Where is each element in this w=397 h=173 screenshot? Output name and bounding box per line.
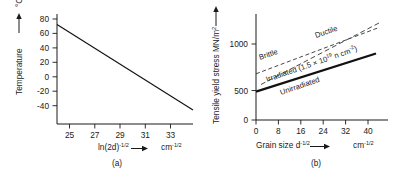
figure-container: 80 60 40 20 0 -20 -40 25 27 29 31 33 — [0, 0, 397, 173]
chart-a-x-tick-label-0: 25 — [65, 130, 75, 140]
chart-a-ylabel-text: Temperature — [14, 48, 24, 95]
chart-a-x-ticks — [70, 124, 171, 129]
chart-b-xlabel-exponent: -1/2 — [300, 140, 310, 146]
chart-b-x-tick-label-2: 16 — [296, 126, 306, 136]
svg-text:cm-1/2: cm-1/2 — [161, 142, 182, 153]
chart-a-subcaption: (a) — [112, 158, 122, 168]
chart-b-x-tick-label-1: 8 — [276, 126, 281, 136]
chart-b-y-tick-label-2: 1000 — [230, 39, 249, 49]
chart-b-y-axis-title: Tensile yield stress MN/m2 — [211, 6, 222, 124]
chart-a-y-tick-label-6: -40 — [37, 101, 49, 111]
chart-b-annotation-ductile: Ductile — [314, 24, 339, 40]
chart-a-x-tick-label-4: 33 — [166, 130, 176, 140]
chart-b-subcaption: (b) — [311, 158, 321, 168]
chart-a-x-tick-label-3: 31 — [141, 130, 151, 140]
chart-a-svg: 80 60 40 20 0 -20 -40 25 27 29 31 33 — [0, 0, 199, 173]
chart-a-y-axis-title: Temperature °C — [14, 0, 24, 95]
chart-b-annotation-irradiated-close: ) — [353, 44, 359, 53]
chart-a-xlabel-text: ln(2d) — [98, 142, 119, 152]
chart-a-x-unit: cm-1/2 — [161, 142, 182, 153]
chart-a-x-tick-label-2: 29 — [115, 130, 125, 140]
chart-a-y-tick-label-5: -20 — [37, 86, 49, 96]
chart-b-xunit-exponent: -1/2 — [364, 140, 374, 146]
chart-a-y-tick-label-0: 80 — [40, 14, 50, 24]
chart-b-x-tick-label-4: 32 — [341, 126, 351, 136]
chart-a-x-axis-title: ln(2d)-1/2 — [98, 142, 148, 153]
chart-a-series-line — [57, 25, 193, 111]
chart-b-xlabel-text: Grain size d — [256, 140, 301, 150]
svg-text:Grain size d-1/2: Grain size d-1/2 — [256, 140, 310, 151]
svg-text:ln(2d)-1/2: ln(2d)-1/2 — [98, 142, 129, 153]
chart-a-xunit-text: cm — [161, 142, 172, 152]
chart-a-xlabel-exponent: -1/2 — [119, 142, 129, 148]
chart-a-xunit-exponent: -1/2 — [172, 142, 182, 148]
chart-b-ylabel-text: Tensile yield stress MN/m — [211, 30, 221, 124]
chart-b-ylabel-exponent: 2 — [211, 27, 217, 30]
chart-a-y-ticks — [53, 19, 58, 106]
chart-panel-a: 80 60 40 20 0 -20 -40 25 27 29 31 33 — [0, 0, 199, 173]
chart-b-x-tick-label-3: 24 — [319, 126, 329, 136]
chart-a-y-tick-label-1: 60 — [40, 28, 50, 38]
chart-b-y-ticks — [252, 44, 257, 120]
chart-b-x-tick-label-5: 40 — [363, 126, 373, 136]
chart-b-svg: 0 500 1000 0 8 16 24 32 40 — [198, 0, 397, 173]
chart-b-xunit-text: cm — [353, 140, 364, 150]
chart-a-y-tick-label-2: 40 — [40, 43, 50, 53]
chart-a-x-tick-label-1: 27 — [90, 130, 100, 140]
chart-b-y-tick-label-1: 500 — [234, 86, 248, 96]
chart-b-x-axis-title: Grain size d-1/2 — [256, 140, 330, 151]
svg-text:Tensile yield stress MN/m2: Tensile yield stress MN/m2 — [211, 27, 222, 124]
chart-a-y-tick-label-4: 0 — [44, 72, 49, 82]
chart-a-y-tick-label-3: 20 — [40, 57, 50, 67]
chart-b-x-tick-label-0: 0 — [254, 126, 259, 136]
chart-a-yunit-text: °C — [14, 0, 24, 7]
chart-panel-b: 0 500 1000 0 8 16 24 32 40 — [198, 0, 397, 173]
chart-b-x-ticks — [256, 120, 368, 125]
chart-b-x-unit: cm-1/2 — [353, 140, 374, 151]
chart-b-annotation-brittle: Brittle — [258, 47, 279, 62]
chart-b-y-tick-label-0: 0 — [243, 115, 248, 125]
